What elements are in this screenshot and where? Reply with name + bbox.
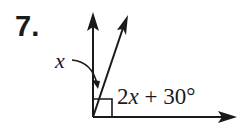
angle-diagram	[0, 0, 249, 138]
angle-expression-label: 2x + 30°	[117, 84, 195, 110]
expression-rest: + 30°	[139, 84, 196, 109]
angle-x-label: x	[55, 48, 65, 74]
expression-coefficient: 2	[117, 84, 129, 109]
expression-variable: x	[129, 84, 139, 109]
